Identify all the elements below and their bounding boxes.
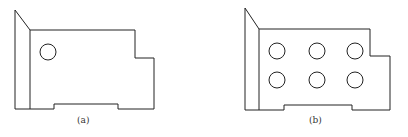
plate-outline	[259, 29, 390, 110]
side-flange	[245, 8, 259, 110]
hole	[40, 44, 56, 60]
hole	[347, 72, 363, 88]
plate-outline	[30, 30, 154, 109]
figure-b-caption: (b)	[309, 115, 322, 125]
hole	[347, 43, 363, 59]
hole	[309, 72, 325, 88]
diagram-canvas	[0, 0, 408, 137]
figure-b	[245, 8, 390, 110]
hole	[269, 72, 285, 88]
hole	[269, 43, 285, 59]
hole	[309, 43, 325, 59]
side-flange	[15, 10, 30, 109]
figure-a	[15, 10, 154, 109]
figure-a-caption: (a)	[77, 115, 89, 125]
